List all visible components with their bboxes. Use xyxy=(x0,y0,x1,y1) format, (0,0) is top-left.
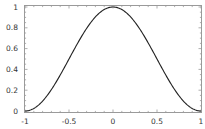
y-axis-tick-labels: 00.20.40.60.81 xyxy=(6,3,18,116)
y-tick-label: 1 xyxy=(13,3,18,12)
x-tick-label: -1 xyxy=(21,117,29,126)
data-series-line xyxy=(25,7,201,111)
x-tick-label: -0.5 xyxy=(62,117,77,126)
x-axis-tick-labels: -1-0.500.51 xyxy=(21,117,203,126)
y-tick-label: 0.8 xyxy=(6,23,18,32)
x-axis-ticks xyxy=(25,6,201,113)
x-tick-label: 0.5 xyxy=(151,117,163,126)
y-tick-label: 0 xyxy=(13,107,18,116)
x-tick-label: 1 xyxy=(199,117,204,126)
plot-frame xyxy=(25,6,202,113)
y-tick-label: 0.4 xyxy=(6,65,18,74)
line-chart: -1-0.500.51 00.20.40.60.81 xyxy=(0,0,205,129)
y-tick-label: 0.2 xyxy=(6,86,18,95)
y-axis-ticks xyxy=(25,7,202,111)
y-tick-label: 0.6 xyxy=(6,44,18,53)
x-tick-label: 0 xyxy=(111,117,116,126)
